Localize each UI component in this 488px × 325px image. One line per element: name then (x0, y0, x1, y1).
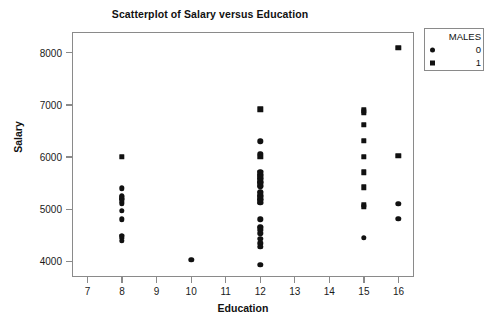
data-point (258, 262, 263, 267)
y-axis-tick-label: 5000 (2, 204, 62, 215)
data-point (258, 199, 263, 204)
legend-title: MALES (425, 31, 481, 42)
x-axis-tick (260, 277, 261, 283)
data-point (258, 139, 263, 144)
data-point (258, 154, 263, 159)
data-point (188, 257, 193, 262)
legend: MALES 01 (424, 28, 484, 71)
y-axis-tick-label: 6000 (2, 152, 62, 163)
legend-entry: 0 (425, 43, 481, 56)
data-point (361, 138, 366, 143)
legend-entry: 1 (425, 56, 481, 69)
data-point (258, 182, 263, 187)
x-axis-tick-label: 16 (378, 286, 418, 297)
data-point (396, 201, 401, 206)
data-point (258, 231, 263, 236)
x-axis-tick (363, 277, 364, 283)
data-point (119, 154, 124, 159)
data-point (361, 185, 366, 190)
data-point (361, 110, 366, 115)
x-axis-tick (294, 277, 295, 283)
x-axis-label: Education (72, 302, 414, 314)
legend-entry-label: 0 (431, 43, 481, 56)
y-axis-tick-label: 7000 (2, 99, 62, 110)
data-point (119, 234, 124, 239)
y-axis-tick-label: 4000 (2, 256, 62, 267)
x-axis-tick (225, 277, 226, 283)
x-axis-tick (156, 277, 157, 283)
data-point (258, 244, 263, 249)
data-point (119, 186, 124, 191)
data-point (396, 216, 401, 221)
data-point (119, 208, 124, 213)
x-axis-tick (398, 277, 399, 283)
plot-area (72, 32, 414, 277)
data-point (119, 198, 124, 203)
data-point (361, 170, 366, 175)
x-axis-tick (191, 277, 192, 283)
data-point (258, 226, 263, 231)
legend-entry-label: 1 (431, 56, 481, 69)
data-point (396, 45, 401, 50)
data-point (258, 106, 263, 111)
x-axis-tick (329, 277, 330, 283)
data-point (119, 216, 124, 221)
x-axis-tick (121, 277, 122, 283)
data-point (361, 204, 366, 209)
scatterplot-chart: Scatterplot of Salary versus Education S… (0, 0, 488, 325)
y-axis-tick-label: 8000 (2, 47, 62, 58)
data-point (361, 122, 366, 127)
data-point (361, 154, 366, 159)
data-point (258, 216, 263, 221)
x-axis-tick (87, 277, 88, 283)
data-point (396, 153, 401, 158)
chart-title: Scatterplot of Salary versus Education (0, 8, 420, 20)
data-point (361, 235, 366, 240)
